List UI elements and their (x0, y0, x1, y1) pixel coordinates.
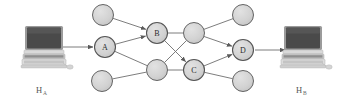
network-node-b[interactable]: B (147, 23, 168, 44)
node-circle (93, 5, 114, 26)
node-circle (147, 60, 168, 81)
diagram-canvas: ABCD H (0, 0, 339, 101)
node-label: D (240, 46, 246, 55)
node-label: B (154, 29, 159, 38)
network-node-c[interactable]: C (184, 60, 205, 81)
node-circle (184, 23, 205, 44)
host-a-label: H A (36, 85, 47, 96)
edge-n-mid-up-to-n-top-right (204, 19, 233, 30)
network-node-a[interactable]: A (95, 37, 116, 58)
host-b-label-sub: B (303, 90, 307, 96)
network-node-n-bottom-right[interactable] (233, 71, 254, 92)
edge-n-mid-up-to-n-d (204, 37, 232, 47)
host-b-label: H B (296, 85, 307, 96)
network-diagram-figure: ABCD H (0, 0, 339, 101)
edge-n-bottom-left-to-n-mid-low (112, 72, 146, 79)
edge-n-a-to-n-mid-low (115, 51, 147, 65)
edge-n-c-to-n-d (204, 54, 232, 66)
network-node-d[interactable]: D (233, 40, 254, 61)
computer-icon-host-a (21, 26, 73, 69)
edge-n-c-to-n-bottom-right (204, 72, 232, 78)
node-circle (233, 71, 254, 92)
node-circle (233, 5, 254, 26)
node-label: C (191, 66, 196, 75)
network-node-n-top-left[interactable] (93, 5, 114, 26)
computer-icon-host-b (280, 26, 332, 69)
edge-n-top-left-to-n-b (113, 18, 146, 29)
network-node-n-mid-low[interactable] (147, 60, 168, 81)
edge-n-b-to-n-c (165, 41, 186, 62)
edge-n-a-to-n-b (115, 36, 145, 44)
network-node-n-mid-up[interactable] (184, 23, 205, 44)
node-label: A (102, 43, 108, 52)
host-b-label-main: H (296, 85, 302, 95)
network-node-n-bottom-left[interactable] (92, 71, 113, 92)
host-a-label-main: H (36, 85, 42, 95)
network-node-n-top-right[interactable] (233, 5, 254, 26)
node-circle (92, 71, 113, 92)
edges-layer (112, 18, 232, 79)
host-a-label-sub: A (43, 90, 47, 96)
